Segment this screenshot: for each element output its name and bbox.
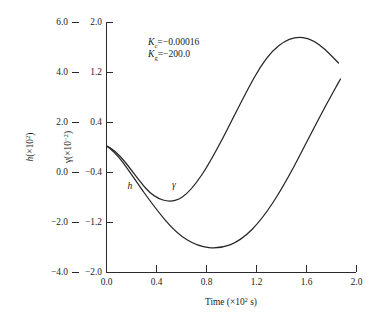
x-axis-tick-label: 1.6 [301, 277, 313, 287]
x-axis-tick-label: 0.4 [151, 277, 163, 287]
left-axis-tick-label: 4.0 [56, 67, 68, 77]
x-axis-unit: s) [248, 297, 257, 308]
gamma-axis-exponent: −2 [62, 134, 69, 141]
left-axis-tick-label: −4.0 [51, 267, 68, 277]
left-axis-tick-label: 2.0 [56, 117, 68, 127]
curve-label-h: h [128, 180, 133, 191]
left-axis-tick-label: 0.0 [56, 167, 68, 177]
gamma-axis-mult: (×10 [63, 141, 74, 159]
left-axis-tick-label: 6.0 [56, 17, 68, 27]
x-axis-tick-label: 0.8 [201, 277, 213, 287]
x-axis-title-text: Time ( [205, 297, 230, 308]
x-axis-tick-label: 2.0 [351, 277, 363, 287]
plot-frame [106, 22, 356, 273]
chart-svg: 6.0 4.0 2.0 0.0 −2.0 −4.0 h(×102) h(×10²… [0, 0, 374, 318]
left-axis-mult: (×10 [25, 139, 36, 157]
kg-value: =−200.0 [158, 48, 191, 59]
x-axis-title-mult: ×10 [230, 297, 245, 307]
gamma-axis-title-group: γ(×10−2) [62, 131, 74, 164]
curve-h [107, 37, 339, 201]
gamma-axis-tick-label: 2.0 [90, 17, 102, 27]
figure-container: 6.0 4.0 2.0 0.0 −2.0 −4.0 h(×102) h(×10²… [0, 0, 374, 318]
gamma-axis-tick-label: 1.2 [90, 67, 102, 77]
kg-annotation: Kg=−200.0 [147, 48, 190, 61]
left-axis-title: h(×102) [24, 133, 36, 162]
curve-gamma [107, 79, 341, 248]
gamma-axis-title: γ(×10−2) [62, 131, 74, 164]
gamma-axis-tick-label: 0.4 [90, 117, 102, 127]
gamma-axis-tick-label: −1.2 [85, 217, 102, 227]
gamma-axis-tick-label: −2.0 [85, 267, 102, 277]
annotation-block: Kc=−0.00016 Kg=−200.0 [147, 36, 200, 61]
kc-value: =−0.00016 [157, 36, 199, 47]
left-axis-tick-label: −2.0 [51, 217, 68, 227]
x-axis-group: 0.0 0.4 0.8 1.2 1.6 2.0 [101, 265, 363, 287]
x-axis-title: Time (×102 s) [205, 296, 257, 308]
gamma-axis-tick-label: −0.4 [85, 167, 102, 177]
left-axis-title-group: h(×102) [24, 133, 36, 162]
left-axis-close: ) [25, 133, 36, 136]
curve-label-gamma: γ [172, 179, 176, 190]
x-axis-tick-label: 0.0 [101, 277, 113, 287]
x-axis-tick-label: 1.2 [251, 277, 263, 287]
kc-annotation: Kc=−0.00016 [147, 36, 200, 49]
gamma-axis-close: ) [63, 131, 74, 134]
